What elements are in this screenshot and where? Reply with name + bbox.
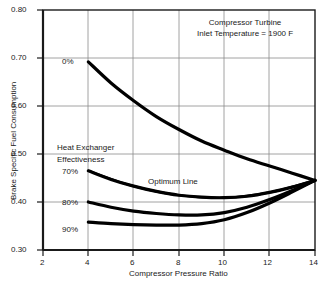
x-tick-label-12: 12	[263, 259, 272, 267]
y-tick-label-0-80: 0.80	[11, 6, 27, 14]
chart-container: 0.80 0.70 0.60 0.50 0.40 0.30 2 4 6 8 10…	[0, 0, 331, 282]
y-tick-label-0-70: 0.70	[11, 54, 27, 62]
x-tick-label-4: 4	[85, 259, 89, 267]
curve-label-80-percent: 80%	[62, 199, 78, 207]
chart-plot-area	[0, 0, 331, 282]
x-axis-title: Compressor Pressure Ratio	[129, 270, 228, 278]
y-tick-label-0-30: 0.30	[11, 246, 27, 254]
x-tick-label-6: 6	[130, 259, 134, 267]
turbine-inlet-temperature-annotation: Compressor Turbine Inlet Temperature = 1…	[197, 18, 293, 40]
curve-label-90-percent: 90%	[62, 226, 78, 234]
heat-exchanger-effectiveness-annotation: Heat Exchanger Effectiveness	[57, 142, 114, 165]
heat-exchanger-note-line-2: Effectiveness	[57, 154, 114, 166]
x-tick-label-14: 14	[309, 259, 318, 267]
y-axis-title: Brake Specific Fuel Consumption	[10, 82, 18, 200]
curve-label-70-percent: 70%	[62, 168, 78, 176]
optimum-line-annotation: Optimum Line	[148, 177, 198, 188]
heat-exchanger-note-line-1: Heat Exchanger	[57, 142, 114, 154]
curve-label-0-percent: 0%	[62, 58, 74, 66]
turbine-note-line-1: Compressor Turbine	[197, 18, 293, 29]
x-tick-label-2: 2	[40, 259, 44, 267]
x-tick-label-10: 10	[218, 259, 227, 267]
turbine-note-line-2: Inlet Temperature = 1900 F	[197, 29, 293, 40]
x-tick-label-8: 8	[176, 259, 180, 267]
